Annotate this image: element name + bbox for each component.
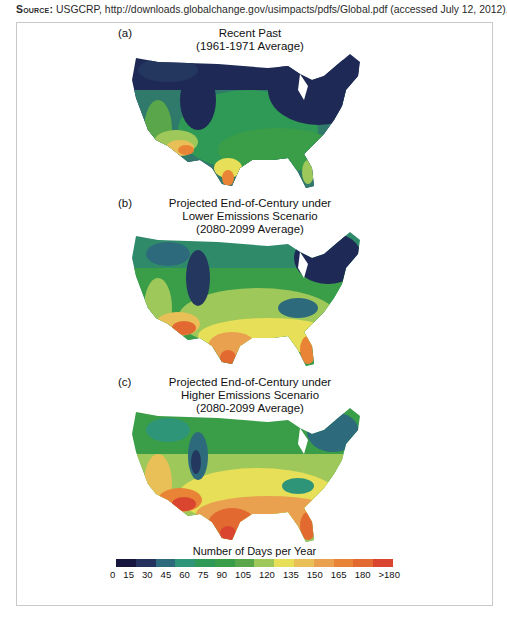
legend-tick: 0 [110, 569, 115, 580]
legend-tick: 180 [355, 569, 371, 580]
legend-swatch [215, 559, 235, 567]
legend-swatch [294, 559, 314, 567]
legend-tick: 90 [216, 569, 227, 580]
legend-tick: 135 [283, 569, 299, 580]
legend-tick: 60 [179, 569, 190, 580]
map-c-higher-emissions [128, 404, 368, 546]
legend-swatch [353, 559, 373, 567]
panel-b-letter: (b) [118, 197, 132, 209]
legend-tick: 75 [198, 569, 209, 580]
legend-color-bar [116, 559, 393, 567]
panel-b-title-line: Projected End-of-Century under [150, 197, 350, 210]
panel-a-letter: (a) [118, 27, 132, 39]
legend-swatch [195, 559, 215, 567]
source-label: Source: [16, 4, 53, 15]
panel-c-letter: (c) [118, 376, 131, 388]
map-a-recent-past [128, 50, 368, 192]
legend-tick: 45 [161, 569, 172, 580]
legend-tick: 120 [259, 569, 275, 580]
legend-title: Number of Days per Year [116, 545, 393, 557]
source-text: USGCRP, http://downloads.globalchange.go… [56, 4, 507, 15]
legend-swatch [314, 559, 334, 567]
legend-swatch [373, 559, 393, 567]
legend-tick: >180 [379, 569, 400, 580]
legend-tick: 150 [307, 569, 323, 580]
source-citation: Source: USGCRP, http://downloads.globalc… [16, 4, 507, 15]
legend-swatch [156, 559, 176, 567]
legend-swatch [274, 559, 294, 567]
map-b-lower-emissions [128, 228, 368, 370]
legend-tick-labels: 0153045607590105120135150165180>180 [110, 569, 400, 580]
legend-tick: 30 [142, 569, 153, 580]
legend-swatch [116, 559, 136, 567]
legend-tick: 15 [123, 569, 134, 580]
panel-b-title-line: Lower Emissions Scenario [150, 210, 350, 223]
panel-c-title-line: Projected End-of-Century under [150, 376, 350, 389]
legend-swatch [175, 559, 195, 567]
legend-swatch [235, 559, 255, 567]
legend-swatch [136, 559, 156, 567]
legend-tick: 165 [331, 569, 347, 580]
panel-a-title-line: Recent Past [150, 27, 350, 40]
panel-c-title-line: Higher Emissions Scenario [150, 389, 350, 402]
legend-tick: 105 [235, 569, 251, 580]
legend-swatch [254, 559, 274, 567]
legend-swatch [334, 559, 354, 567]
